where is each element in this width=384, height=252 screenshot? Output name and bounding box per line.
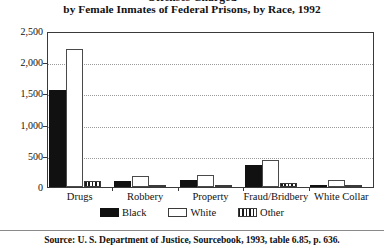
bar-white-collar-other	[345, 185, 362, 187]
plot-area	[48, 33, 373, 187]
chart-figure: Offenses Charged by Female Inmates of Fe…	[0, 0, 384, 252]
x-tick-mark	[243, 188, 244, 191]
bar-fraud-bridbery-white	[262, 160, 279, 188]
x-tick-mark	[178, 188, 179, 191]
bar-drugs-other	[84, 181, 101, 187]
legend-item-other[interactable]: Other	[238, 207, 284, 218]
bar-property-white	[197, 175, 214, 187]
y-tick-label: 1,000	[0, 121, 43, 131]
x-axis-labels: DrugsRobberyPropertyFraud/BridberyWhite …	[47, 190, 374, 206]
bar-fraud-bridbery-black	[245, 165, 262, 187]
legend-label: Other	[260, 207, 284, 218]
y-tick-label: 500	[0, 152, 43, 162]
y-tick-label: 2,500	[0, 27, 43, 37]
bar-group	[180, 33, 232, 187]
bar-drugs-white	[66, 49, 83, 188]
solid-black-swatch	[100, 208, 119, 217]
bar-white-collar-black	[310, 185, 327, 188]
bar-group	[245, 33, 297, 187]
plot-frame	[47, 32, 374, 188]
legend-label: White	[190, 207, 216, 218]
striped-other-swatch	[238, 208, 257, 217]
outline-white-swatch	[168, 208, 187, 217]
legend-label: Black	[122, 207, 147, 218]
x-tick-label: White Collar	[295, 190, 384, 203]
bar-property-other	[215, 185, 232, 187]
chart-title: Offenses Charged by Female Inmates of Fe…	[0, 0, 384, 16]
bar-property-black	[180, 180, 197, 187]
chart-title-line: by Female Inmates of Federal Prisons, by…	[0, 3, 384, 16]
x-tick-mark	[112, 188, 113, 191]
source-note: Source: U. S. Department of Justice, Sou…	[0, 234, 384, 246]
bar-white-collar-white	[328, 180, 345, 187]
y-tick-label: 1,500	[0, 89, 43, 99]
bar-robbery-black	[114, 181, 131, 187]
y-tick-label: 2,000	[0, 58, 43, 68]
bar-robbery-white	[132, 176, 149, 187]
bar-fraud-bridbery-other	[280, 183, 297, 187]
bar-robbery-other	[149, 185, 166, 187]
bar-group	[114, 33, 166, 187]
bar-group	[310, 33, 362, 187]
chart-legend: BlackWhiteOther	[0, 207, 384, 218]
legend-item-black[interactable]: Black	[100, 207, 147, 218]
legend-item-white[interactable]: White	[168, 207, 216, 218]
bar-drugs-black	[49, 90, 66, 187]
source-divider	[0, 230, 384, 231]
bar-group	[49, 33, 101, 187]
x-tick-mark	[309, 188, 310, 191]
